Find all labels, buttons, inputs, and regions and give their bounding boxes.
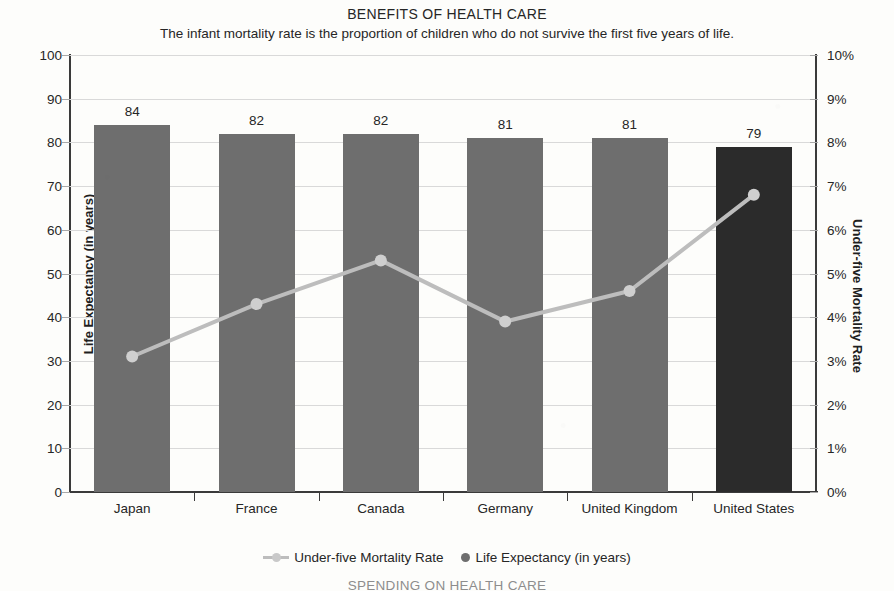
legend-label: Under-five Mortality Rate [294,550,443,565]
left-axis-tick [62,274,70,275]
right-axis-tick-label: 2% [816,397,873,412]
right-axis-tick [810,142,818,143]
legend-item-life-expectancy[interactable]: Life Expectancy (in years) [461,550,630,565]
chart-legend: Under-five Mortality Rate Life Expectanc… [0,550,894,565]
chart-container: BENEFITS OF HEALTH CARE The infant morta… [0,0,894,591]
left-axis-tick [62,317,70,318]
plot-area: Life Expectancy (in years) 0102030405060… [70,55,816,492]
left-axis-tick [62,448,70,449]
right-axis-tick-label: 8% [816,135,873,150]
x-axis-tick [443,492,444,501]
right-axis-tick [810,492,818,493]
right-axis-tick [810,361,818,362]
right-axis-tick [810,405,818,406]
x-axis-tick [194,492,195,501]
x-axis-label-japan: Japan [77,500,187,517]
chart-subtitle: The infant mortality rate is the proport… [0,26,894,41]
right-axis-title: Under-five Mortality Rate [850,219,865,373]
left-axis-tick [62,99,70,100]
left-axis-tick [62,361,70,362]
next-chart-title-cutoff: SPENDING ON HEALTH CARE [0,578,894,591]
line-data-point[interactable] [251,298,263,310]
line-data-point[interactable] [499,316,511,328]
line-marker-icon [263,556,289,559]
left-axis-tick [62,230,70,231]
right-axis-tick [810,55,818,56]
legend-item-under-five-mortality-rate[interactable]: Under-five Mortality Rate [263,550,443,565]
right-axis-tick-label: 7% [816,179,873,194]
line-data-point[interactable] [126,351,138,363]
x-axis-label-united-kingdom: United Kingdom [575,500,685,517]
right-axis-tick-label: 10% [816,48,873,63]
x-axis-tick [567,492,568,501]
x-axis-tick [319,492,320,501]
left-axis-tick [62,492,70,493]
right-axis-tick-label: 9% [816,91,873,106]
x-axis-label-france: France [202,500,312,517]
dot-marker-icon [461,553,470,562]
x-axis-tick [692,492,693,501]
under-five-mortality-line [70,55,816,492]
right-axis-tick [810,99,818,100]
x-axis-label-germany: Germany [450,500,560,517]
right-axis-tick [810,274,818,275]
right-axis-tick [810,448,818,449]
left-axis-tick [62,142,70,143]
chart-title: BENEFITS OF HEALTH CARE [0,6,894,22]
right-axis-tick [810,230,818,231]
left-axis-tick [62,186,70,187]
line-data-point[interactable] [375,254,387,266]
right-axis-tick [810,317,818,318]
right-axis-tick-label: 0% [816,485,873,500]
x-axis-label-united-states: United States [699,500,809,517]
line-data-point[interactable] [624,285,636,297]
right-axis-tick [810,186,818,187]
left-axis-tick [62,405,70,406]
right-axis-tick-label: 1% [816,441,873,456]
x-axis-label-canada: Canada [326,500,436,517]
line-data-point[interactable] [748,189,760,201]
left-axis-tick [62,55,70,56]
legend-label: Life Expectancy (in years) [475,550,630,565]
